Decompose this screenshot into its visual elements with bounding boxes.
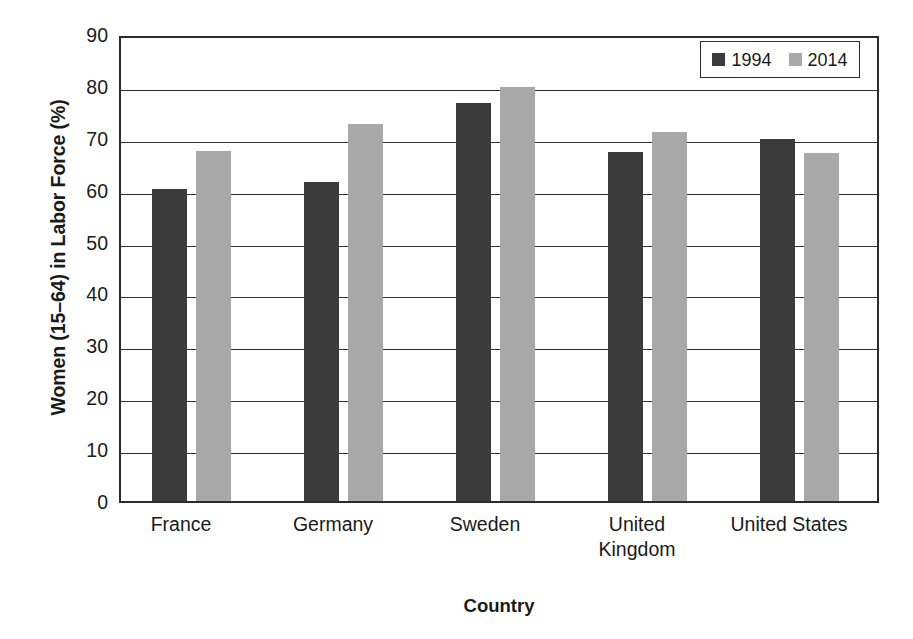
x-tick-label-line: United [561,512,713,537]
bar-france-1994 [152,189,187,501]
x-tick-label-line: United States [713,512,865,537]
bar-united-states-2014 [804,153,839,501]
y-tick-label: 80 [56,78,108,98]
y-tick-label: 70 [56,130,108,150]
y-tick-label: 10 [56,441,108,461]
legend: 19942014 [700,41,860,78]
x-tick-label-line: Germany [257,512,409,537]
x-tick-label: UnitedKingdom [561,512,713,562]
y-tick-label: 20 [56,389,108,409]
bar-united-states-1994 [760,139,795,501]
bars-layer [121,38,877,501]
legend-entry-2014: 2014 [789,51,848,69]
bar-united-kingdom-2014 [652,132,687,501]
legend-label: 2014 [808,51,848,69]
y-tick-label: 60 [56,182,108,202]
x-tick-label: Germany [257,512,409,537]
legend-swatch-icon [789,53,802,66]
bar-france-2014 [196,151,231,501]
y-tick-label: 40 [56,286,108,306]
y-tick-label: 90 [56,26,108,46]
y-axis-tick-labels: 9080706050403020100 [56,36,108,503]
x-axis-tick-labels: FranceGermanySwedenUnitedKingdomUnited S… [119,512,879,582]
bar-sweden-2014 [500,87,535,501]
y-tick-label: 50 [56,234,108,254]
x-tick-label-line: France [105,512,257,537]
y-tick-label: 30 [56,338,108,358]
x-tick-label-line: Kingdom [561,537,713,562]
x-tick-label-line: Sweden [409,512,561,537]
x-tick-label: United States [713,512,865,537]
x-tick-label: Sweden [409,512,561,537]
bar-united-kingdom-1994 [608,152,643,501]
legend-label: 1994 [731,51,771,69]
plot-area [119,36,879,503]
x-axis-title: Country [119,595,879,617]
y-tick-label: 0 [56,493,108,513]
bar-germany-1994 [304,182,339,501]
bar-chart: Women (15–64) in Labor Force (%) 9080706… [0,0,913,639]
bar-germany-2014 [348,124,383,501]
bar-sweden-1994 [456,103,491,501]
legend-swatch-icon [712,53,725,66]
legend-entry-1994: 1994 [712,51,771,69]
x-tick-label: France [105,512,257,537]
